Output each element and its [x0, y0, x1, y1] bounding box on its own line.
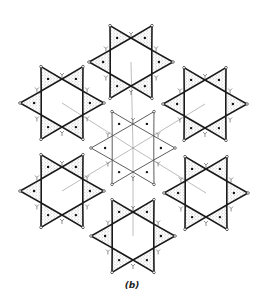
oxygen-vertex: [183, 139, 186, 142]
oxygen-vertex: [174, 235, 177, 238]
tetrahedron: [112, 112, 133, 136]
cation-dot: [118, 123, 120, 125]
oxygen-vertex: [40, 65, 43, 68]
cation-dot: [218, 127, 220, 129]
tetrahedron: [205, 116, 226, 140]
cation-dot: [118, 211, 120, 213]
bridging-bond: [131, 264, 135, 269]
cation-dot: [146, 123, 148, 125]
cation-dot: [89, 102, 91, 104]
cation-dot: [190, 127, 192, 129]
tetrahedron: [20, 179, 41, 203]
oxygen-vertex: [153, 198, 156, 201]
tetrahedron: [131, 74, 152, 98]
cation-dot: [104, 147, 106, 149]
oxygen-vertex: [225, 66, 228, 69]
bridging-bond: [85, 117, 89, 122]
tetrahedron: [62, 155, 83, 179]
oxygen-vertex: [111, 183, 114, 186]
bridging-bond: [85, 205, 89, 210]
tetrahedron: [185, 205, 206, 229]
cation-dot: [75, 126, 77, 128]
cation-dot: [47, 126, 49, 128]
oxygen-vertex: [247, 192, 250, 195]
cation-dot: [158, 61, 160, 63]
tetrahedron: [112, 160, 133, 184]
bridging-bond: [60, 131, 64, 136]
oxygen-vertex: [82, 153, 85, 156]
tetrahedron: [131, 26, 152, 50]
cation-dot: [191, 168, 193, 170]
cation-dot: [160, 147, 162, 149]
tetrahedron: [227, 181, 248, 205]
tetrahedron: [110, 26, 131, 50]
cation-dot: [176, 103, 178, 105]
cation-dot: [116, 85, 118, 87]
tetrahedron: [112, 248, 133, 272]
oxygen-vertex: [40, 138, 43, 141]
cation-dot: [232, 103, 234, 105]
bridging-bond: [179, 207, 183, 212]
bridging-bond: [204, 221, 208, 226]
tetrahedron: [164, 181, 185, 205]
cation-dot: [146, 171, 148, 173]
tetrahedron: [41, 67, 62, 91]
cation-dot: [33, 190, 35, 192]
tetrahedron: [163, 92, 184, 116]
tetrahedron: [110, 74, 131, 98]
bridging-bond: [156, 162, 160, 167]
cation-dot: [47, 214, 49, 216]
oxygen-vertex: [151, 24, 154, 27]
cation-dot: [144, 85, 146, 87]
oxygen-vertex: [226, 228, 229, 231]
tetrahedron: [62, 115, 83, 139]
cation-dot: [177, 192, 179, 194]
oxygen-vertex: [163, 192, 166, 195]
tetrahedron: [226, 92, 247, 116]
tetrahedron: [41, 155, 62, 179]
oxygen-vertex: [90, 235, 93, 238]
oxygen-vertex: [103, 190, 106, 193]
cation-dot: [190, 79, 192, 81]
oxygen-vertex: [174, 147, 177, 150]
cation-dot: [118, 259, 120, 261]
cation-dot: [146, 259, 148, 261]
tetrahedron: [205, 68, 226, 92]
cation-dot: [219, 168, 221, 170]
oxygen-vertex: [184, 155, 187, 158]
bridging-bond: [129, 90, 133, 95]
tetrahedron: [206, 157, 227, 181]
oxygen-vertex: [82, 226, 85, 229]
cation-dot: [47, 78, 49, 80]
bridging-bond: [106, 133, 110, 138]
oxygen-vertex: [111, 271, 114, 274]
bridging-bond: [106, 250, 110, 255]
tetrahedron: [184, 68, 205, 92]
oxygen-vertex: [184, 228, 187, 231]
bridging-bond: [229, 207, 233, 212]
tetrahedron: [206, 205, 227, 229]
tetrahedron: [152, 50, 173, 74]
cation-dot: [89, 190, 91, 192]
bridging-bond: [156, 250, 160, 255]
cation-dot: [33, 102, 35, 104]
cation-dot: [116, 37, 118, 39]
tetrahedron: [41, 115, 62, 139]
oxygen-vertex: [162, 103, 165, 106]
cation-dot: [191, 216, 193, 218]
cation-dot: [75, 166, 77, 168]
bridging-bond: [156, 133, 160, 138]
oxygen-vertex: [246, 103, 249, 106]
oxygen-vertex: [111, 198, 114, 201]
oxygen-vertex: [153, 183, 156, 186]
bridging-bond: [131, 118, 135, 123]
oxygen-vertex: [40, 153, 43, 156]
cation-dot: [144, 37, 146, 39]
tetrahedron: [41, 203, 62, 227]
tetrahedron: [91, 224, 112, 248]
tetrahedron: [185, 157, 206, 181]
oxygen-vertex: [109, 97, 112, 100]
ring-connector-line: [131, 62, 133, 148]
tetrahedron: [91, 136, 112, 160]
bridging-bond: [35, 117, 39, 122]
